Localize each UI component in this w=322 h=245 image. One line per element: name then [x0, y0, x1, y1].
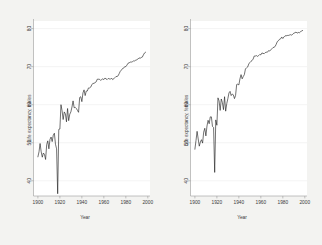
x-axis-title-males: Year [55, 215, 115, 220]
x-tick-label: 1960 [99, 200, 110, 205]
y-axis-title-males: Life expectancy, males [27, 95, 32, 143]
x-tick-label: 1900 [190, 200, 201, 205]
x-axis-title-females: Year [212, 215, 272, 220]
line-chart-males: 4050607080190019201940196019802000 [0, 0, 161, 245]
y-tick-label: 40 [27, 178, 32, 184]
chart-panel-females: 4050607080190019201940196019802000 Life … [161, 0, 322, 245]
chart-panel-males-inner: 4050607080190019201940196019802000 Life … [0, 0, 161, 245]
x-tick-label: 1900 [33, 200, 44, 205]
x-tick-label: 1940 [77, 200, 88, 205]
x-tick-label: 2000 [142, 200, 153, 205]
x-tick-label: 1940 [234, 200, 245, 205]
chart-panel-females-inner: 4050607080190019201940196019802000 Life … [161, 0, 322, 245]
y-tick-label: 80 [27, 26, 32, 32]
y-tick-label: 70 [184, 64, 189, 70]
x-tick-label: 1980 [277, 200, 288, 205]
y-tick-label: 70 [27, 64, 32, 70]
x-tick-label: 1980 [120, 200, 131, 205]
y-tick-label: 40 [184, 178, 189, 184]
x-tick-label: 1920 [55, 200, 66, 205]
x-tick-label: 1920 [212, 200, 223, 205]
chart-panel-males: 4050607080190019201940196019802000 Life … [0, 0, 161, 245]
y-tick-label: 80 [184, 26, 189, 32]
figure-container: 4050607080190019201940196019802000 Life … [0, 0, 322, 245]
x-tick-label: 2000 [299, 200, 310, 205]
x-tick-label: 1960 [256, 200, 267, 205]
y-axis-title-females: Life expectancy, females [184, 95, 189, 146]
